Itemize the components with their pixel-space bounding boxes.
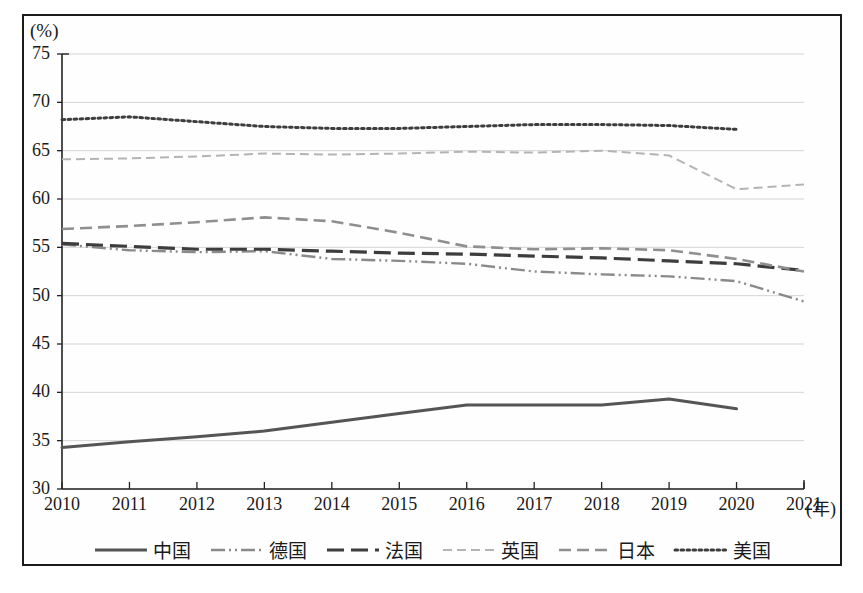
legend-label-法国: 法国 — [385, 536, 423, 563]
legend-item-德国[interactable]: 德国 — [209, 536, 307, 563]
legend-item-日本[interactable]: 日本 — [557, 536, 655, 563]
legend-label-美国: 美国 — [733, 536, 771, 563]
y-tick-75: 75 — [10, 43, 50, 64]
x-tick-2014: 2014 — [297, 494, 367, 515]
legend-label-英国: 英国 — [501, 536, 539, 563]
legend-item-中国[interactable]: 中国 — [93, 536, 191, 563]
legend-item-法国[interactable]: 法国 — [325, 536, 423, 563]
x-tick-2016: 2016 — [432, 494, 502, 515]
legend-swatch-德国 — [209, 543, 265, 557]
series-line-中国 — [62, 399, 737, 447]
legend-label-德国: 德国 — [269, 536, 307, 563]
x-tick-2019: 2019 — [634, 494, 704, 515]
y-tick-40: 40 — [10, 381, 50, 402]
x-tick-2012: 2012 — [162, 494, 232, 515]
series-line-英国 — [62, 151, 804, 190]
x-tick-2017: 2017 — [499, 494, 569, 515]
legend-item-美国[interactable]: 美国 — [673, 536, 771, 563]
y-tick-50: 50 — [10, 285, 50, 306]
x-tick-2021: 2021 — [769, 494, 839, 515]
y-tick-35: 35 — [10, 430, 50, 451]
chart-area: (%) (年) 75706560555045403530 20102011201… — [0, 0, 863, 593]
x-tick-2013: 2013 — [229, 494, 299, 515]
x-tick-2010: 2010 — [27, 494, 97, 515]
legend-swatch-日本 — [557, 543, 613, 557]
legend-swatch-法国 — [325, 543, 381, 557]
y-tick-45: 45 — [10, 333, 50, 354]
legend-swatch-美国 — [673, 543, 729, 557]
x-tick-2011: 2011 — [94, 494, 164, 515]
legend-swatch-中国 — [93, 543, 149, 557]
legend-label-中国: 中国 — [153, 536, 191, 563]
chart-legend: 中国德国法国英国日本美国 — [0, 536, 863, 563]
x-tick-2020: 2020 — [702, 494, 772, 515]
y-tick-55: 55 — [10, 236, 50, 257]
x-tick-2015: 2015 — [364, 494, 434, 515]
legend-swatch-英国 — [441, 543, 497, 557]
x-tick-2018: 2018 — [567, 494, 637, 515]
y-axis-unit-label: (%) — [30, 20, 58, 42]
series-line-美国 — [62, 117, 737, 130]
legend-item-英国[interactable]: 英国 — [441, 536, 539, 563]
y-tick-60: 60 — [10, 188, 50, 209]
y-tick-70: 70 — [10, 91, 50, 112]
legend-label-日本: 日本 — [617, 536, 655, 563]
y-tick-65: 65 — [10, 140, 50, 161]
